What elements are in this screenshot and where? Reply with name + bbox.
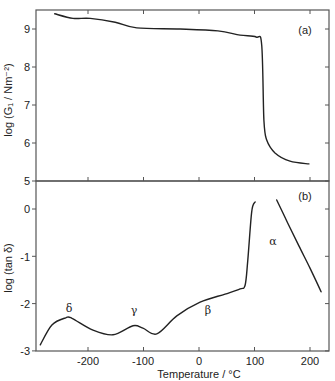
curve-panel-a-series-0 [55,14,309,164]
x-axis-title: Temperature / °C [157,368,240,380]
peak-label-delta: δ [66,302,73,315]
curve-panel-b-series-1 [277,200,321,292]
panel-b-curves [40,200,321,345]
y-tick-labels-top: 9 8 7 6 5 [24,23,30,187]
panel-a-curves [55,14,309,164]
xtick-minus100: -100 [132,355,154,367]
xtick-minus200: -200 [77,355,99,367]
panel-a-label: (a) [298,24,311,36]
panel-b-frame [36,181,329,351]
ytick-7: 7 [24,99,30,111]
xtick-0: 0 [196,355,202,367]
panel-a-frame [36,10,329,181]
peak-label-beta: β [205,304,211,317]
ytick-minus3: -3 [20,345,30,357]
ytick-8: 8 [24,61,30,73]
y-tick-labels-bottom: 0 -1 -2 -3 [20,203,30,357]
peak-label-alpha: α [269,235,277,248]
ytick-minus2: -2 [20,298,30,310]
ytick-0: 0 [24,203,30,215]
y-axis-title-top: log (G₁ / Nm⁻²) [2,63,14,136]
panel-b-label: (b) [298,190,311,202]
xtick-200: 200 [301,355,319,367]
curve-panel-b-series-0 [40,202,255,345]
ytick-6: 6 [24,137,30,149]
ytick-5: 5 [24,175,30,187]
ytick-9: 9 [24,23,30,35]
y-axis-title-bottom: log (tan δ) [2,243,14,293]
x-tick-labels: -200 -100 0 100 200 [77,355,319,367]
chart-figure: 9 8 7 6 5 0 -1 -2 -3 -200 -100 0 100 200… [0,0,335,381]
ytick-minus1: -1 [20,251,30,263]
xtick-100: 100 [246,355,264,367]
peak-label-gamma: γ [131,304,138,317]
